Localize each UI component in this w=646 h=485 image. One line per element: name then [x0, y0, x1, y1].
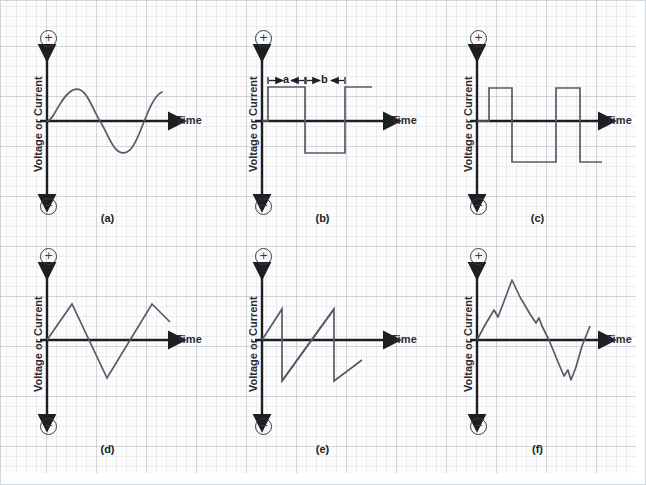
- y-axis-label-b: Voltage or Current: [247, 76, 259, 172]
- x-axis-label-d: Time: [176, 333, 202, 345]
- panel-f: + − Voltage or Current Time (f): [430, 240, 645, 480]
- panel-b: a b + − Voltage or Current Time (b): [215, 0, 430, 240]
- panel-c: + − Voltage or Current Time (c): [430, 0, 645, 240]
- caption-e: (e): [215, 443, 430, 455]
- caption-a: (a): [0, 212, 215, 224]
- minus-symbol-f: −: [470, 418, 487, 435]
- plus-symbol-f: +: [470, 248, 487, 265]
- dimension-label-b: b: [321, 73, 328, 85]
- paper-edge-bottom: [0, 473, 646, 485]
- x-axis-label-c: Time: [606, 114, 632, 126]
- y-axis-label-a: Voltage or Current: [32, 76, 44, 172]
- minus-symbol-e: −: [255, 418, 272, 435]
- plus-symbol-c: +: [470, 30, 487, 47]
- plus-symbol-d: +: [40, 248, 57, 265]
- caption-d: (d): [0, 443, 215, 455]
- y-axis-label-f: Voltage or Current: [462, 296, 474, 392]
- waveform-sawtooth: [262, 309, 362, 381]
- waveform-asymmetric-square: [477, 88, 602, 162]
- panel-d: + − Voltage or Current Time (d): [0, 240, 215, 480]
- caption-f: (f): [430, 443, 645, 455]
- x-axis-label-f: Time: [606, 333, 632, 345]
- dimension-label-a: a: [283, 73, 289, 85]
- y-axis-label-c: Voltage or Current: [462, 76, 474, 172]
- caption-b: (b): [215, 212, 430, 224]
- y-axis-label-e: Voltage or Current: [247, 296, 259, 392]
- x-axis-label-e: Time: [391, 333, 417, 345]
- panel-e: + − Voltage or Current Time (e): [215, 240, 430, 480]
- y-axis-label-d: Voltage or Current: [32, 296, 44, 392]
- plus-symbol-b: +: [255, 30, 272, 47]
- plus-symbol-a: +: [40, 30, 57, 47]
- panel-a: + − Voltage or Current Time (a): [0, 0, 215, 240]
- paper-edge-right: [636, 0, 646, 485]
- plus-symbol-e: +: [255, 248, 272, 265]
- waveform-complex: [477, 280, 590, 380]
- waveform-sawtooth-ramp2: [282, 309, 334, 381]
- x-axis-label-a: Time: [176, 114, 202, 126]
- graph-paper-figure: + − Voltage or Current Time (a): [0, 0, 646, 485]
- x-axis-label-b: Time: [391, 114, 417, 126]
- minus-symbol-d: −: [40, 418, 57, 435]
- caption-c: (c): [430, 212, 645, 224]
